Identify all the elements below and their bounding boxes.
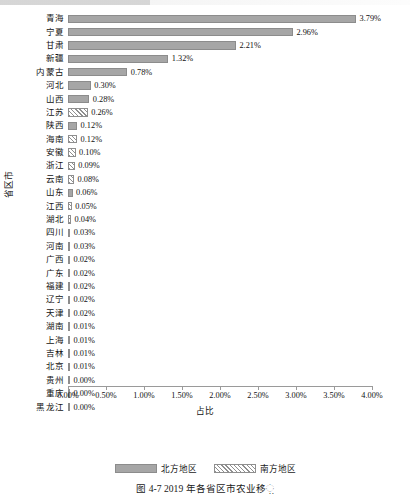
bar-rows: 青海3.79%宁夏2.96%甘肃2.21%新疆1.32%内蒙古0.78%河北0.…	[0, 12, 410, 414]
bar	[68, 215, 71, 223]
category-label: 上海	[0, 336, 64, 345]
x-tick	[106, 386, 107, 390]
bar-row: 宁夏2.96%	[0, 25, 410, 38]
bar-zone: 0.06%	[68, 186, 410, 199]
value-label: 2.21%	[239, 41, 260, 50]
bar-row: 天津0.02%	[0, 307, 410, 320]
x-tick	[296, 386, 297, 390]
x-tick-label: 3.50%	[323, 391, 344, 401]
bar	[68, 122, 77, 130]
bar-zone: 0.26%	[68, 106, 410, 119]
bar	[68, 15, 356, 23]
bar	[68, 322, 70, 330]
value-label: 0.10%	[79, 148, 100, 157]
x-tick-label: 1.50%	[171, 391, 192, 401]
bar-row: 四川0.03%	[0, 226, 410, 239]
value-label: 0.12%	[81, 121, 102, 130]
bar-row: 江西0.05%	[0, 199, 410, 212]
value-label: 3.79%	[360, 14, 381, 23]
bar-zone: 0.00%	[68, 387, 410, 400]
chart-legend: 北方地区 南方地区	[0, 462, 410, 474]
bar-zone: 0.08%	[68, 173, 410, 186]
bar	[68, 41, 236, 49]
bar-row: 海南0.12%	[0, 133, 410, 146]
value-label: 0.12%	[81, 135, 102, 144]
x-tick-label: 3.00%	[285, 391, 306, 401]
bar-row: 上海0.01%	[0, 333, 410, 346]
category-label: 湖北	[0, 215, 64, 224]
bar-zone: 0.04%	[68, 213, 410, 226]
category-label: 海南	[0, 135, 64, 144]
bar-zone: 0.01%	[68, 320, 410, 333]
bar	[68, 282, 70, 290]
bar	[68, 229, 70, 237]
bar-zone: 0.12%	[68, 119, 410, 132]
bar-zone: 0.00%	[68, 374, 410, 387]
x-tick-label: 0.50%	[95, 391, 116, 401]
bar-row: 湖南0.01%	[0, 320, 410, 333]
bar-row: 云南0.08%	[0, 173, 410, 186]
value-label: 0.02%	[74, 309, 95, 318]
legend-item-north: 北方地区	[115, 462, 197, 474]
bar-zone: 1.32%	[68, 52, 410, 65]
bar-zone: 0.02%	[68, 280, 410, 293]
bar-row: 广东0.02%	[0, 266, 410, 279]
category-label: 辽宁	[0, 295, 64, 304]
bar-zone: 0.03%	[68, 226, 410, 239]
category-label: 贵州	[0, 376, 64, 385]
category-label: 宁夏	[0, 28, 64, 37]
bar	[68, 202, 72, 210]
bar	[68, 349, 70, 357]
bar-row: 江苏0.26%	[0, 106, 410, 119]
legend-label-south: 南方地区	[260, 462, 296, 474]
value-label: 0.08%	[78, 175, 99, 184]
value-label: 1.32%	[172, 54, 193, 63]
bar	[68, 376, 70, 384]
bar-row: 吉林0.01%	[0, 347, 410, 360]
legend-label-north: 北方地区	[161, 462, 197, 474]
bar	[68, 296, 70, 304]
value-label: 0.28%	[93, 95, 114, 104]
figure-caption: 图 4-7 2019 年各省区市农业移಼	[0, 481, 410, 495]
bar-zone: 0.02%	[68, 266, 410, 279]
x-tick	[182, 386, 183, 390]
value-label: 0.03%	[74, 228, 95, 237]
value-label: 0.03%	[74, 242, 95, 251]
value-label: 0.26%	[91, 108, 112, 117]
legend-swatch-north	[115, 464, 157, 473]
value-label: 0.02%	[74, 269, 95, 278]
bar-zone: 0.05%	[68, 199, 410, 212]
category-label: 甘肃	[0, 41, 64, 50]
bar-row: 辽宁0.02%	[0, 293, 410, 306]
bar	[68, 162, 75, 170]
category-label: 重庆	[0, 389, 64, 398]
bar	[68, 242, 70, 250]
category-label: 江苏	[0, 108, 64, 117]
legend-swatch-south	[214, 464, 256, 473]
bar	[68, 189, 73, 197]
value-label: 0.01%	[74, 322, 95, 331]
x-tick	[372, 386, 373, 390]
bar-row: 山西0.28%	[0, 92, 410, 105]
bar-zone: 0.01%	[68, 347, 410, 360]
value-label: 0.00%	[74, 376, 95, 385]
x-axis-title: 占比	[0, 404, 410, 416]
bar-zone: 0.03%	[68, 240, 410, 253]
category-label: 内蒙古	[0, 68, 64, 77]
x-tick	[258, 386, 259, 390]
bar-row: 山东0.06%	[0, 186, 410, 199]
bar	[68, 68, 127, 76]
bar	[68, 363, 70, 371]
bar-zone: 0.12%	[68, 133, 410, 146]
bar-row: 内蒙古0.78%	[0, 66, 410, 79]
bar	[68, 148, 76, 156]
bar-zone: 0.09%	[68, 159, 410, 172]
bar-zone: 2.21%	[68, 39, 410, 52]
x-tick-label: 2.00%	[209, 391, 230, 401]
bar-row: 新疆1.32%	[0, 52, 410, 65]
x-tick	[68, 386, 69, 390]
bar	[68, 28, 293, 36]
bar-zone: 0.02%	[68, 253, 410, 266]
bar-zone: 0.28%	[68, 92, 410, 105]
